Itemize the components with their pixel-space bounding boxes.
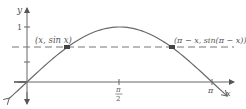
y-axis-label: y xyxy=(16,5,23,15)
x-tick-label-half-pi-num: π xyxy=(115,86,121,94)
sine-diagram: y x 1 π 2 π (x, sin x) (π − x, sin(π − x… xyxy=(0,0,246,109)
x-axis-label: x xyxy=(226,89,231,98)
point-label-pi-minus-x: (π − x, sin(π − x)) xyxy=(174,36,246,45)
point-pi-minus-x xyxy=(169,45,175,49)
x-tick-label-pi: π xyxy=(207,86,214,95)
point-label-x-sinx: (x, sin x) xyxy=(35,35,72,45)
x-tick-label-half-pi-den: 2 xyxy=(116,95,120,103)
y-tick-label-1: 1 xyxy=(17,23,22,32)
point-x-sinx xyxy=(64,45,70,49)
